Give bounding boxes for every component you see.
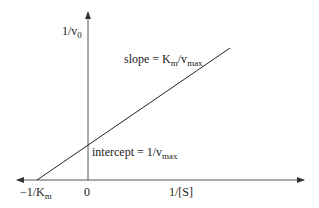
slope-label: slope = Km/vmax [124, 53, 203, 65]
lineweaver-burk-diagram: 1/v0 slope = Km/vmax intercept = 1/vmax … [0, 0, 319, 208]
y-axis-label: 1/v0 [62, 25, 82, 37]
x-axis-label: 1/[S] [169, 186, 193, 198]
x-intercept-label: −1/Km [20, 186, 52, 198]
intercept-label: intercept = 1/vmax [92, 146, 178, 158]
plot-graphics [0, 0, 319, 208]
origin-label: 0 [84, 186, 90, 198]
